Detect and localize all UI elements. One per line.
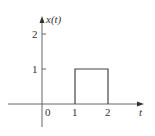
pulse-plot: x(t) 2 1 0 1 2 t bbox=[0, 0, 155, 136]
x-tick-label-1: 1 bbox=[72, 106, 78, 118]
x-axis-label: t bbox=[139, 106, 143, 118]
origin-label: 0 bbox=[45, 106, 51, 118]
y-tick-label-2: 2 bbox=[32, 28, 38, 40]
y-axis-arrow-icon bbox=[40, 16, 45, 23]
y-tick-label-1: 1 bbox=[32, 63, 38, 75]
x-tick-label-2: 2 bbox=[105, 106, 111, 118]
pulse-line bbox=[75, 69, 108, 104]
y-axis-label: x(t) bbox=[45, 13, 62, 26]
